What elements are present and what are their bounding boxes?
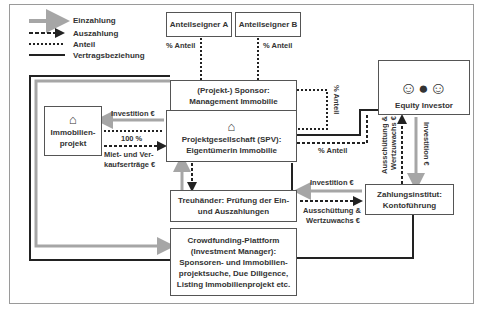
node-anteilseigner-b: Anteilseigner B (235, 12, 301, 37)
node-crowdfunding: Crowdfunding-Plattform (Investment Manag… (170, 228, 297, 296)
node-immobilienprojekt: ⌂ Immobilien- projekt (44, 106, 102, 156)
node-spv: ⌂ Projektgesellschaft (SPV): Eigentümeri… (166, 110, 297, 162)
node-treuhaender: Treuhänder: Prüfung der Ein- und Auszahl… (170, 190, 297, 222)
house-icon: ⌂ (69, 113, 77, 127)
label-investition-treuhaender: Investition € (310, 178, 354, 188)
label-anteil-a: % Anteil (166, 41, 195, 51)
node-zahlungsinstitut: Zahlungsinstitut: Kontoführung (365, 184, 454, 215)
label-anteil-b: % Anteil (263, 41, 292, 51)
label-miet-1: Miet- und Ver- (104, 150, 154, 160)
node-equity-investor: ☺●☺ Equity Investor (378, 60, 470, 115)
label-investition-immo: Investition € (111, 109, 155, 119)
label-anteil-sponsor: % Anteil (331, 85, 341, 114)
label-ausschuettung-investor-2: Wertzuwachs € (389, 116, 399, 170)
label-100-prozent: 100 % (121, 134, 142, 144)
node-anteilseigner-a: Anteilseigner A (166, 12, 232, 37)
house-icon: ⌂ (228, 120, 236, 134)
label-anteil-spv: % Anteil (318, 146, 347, 156)
people-icon: ☺●☺ (400, 78, 448, 100)
label-ausschuettung-treuhaender-1: Ausschüttung & (303, 206, 361, 216)
node-sponsor: (Projekt-) Sponsor: Management Immobilie (170, 80, 297, 112)
label-ausschuettung-treuhaender-2: Wertzuwachs € (306, 216, 360, 226)
label-investition-investor: Investition € (421, 122, 431, 166)
label-miet-2: kaufserträge € (104, 160, 155, 170)
